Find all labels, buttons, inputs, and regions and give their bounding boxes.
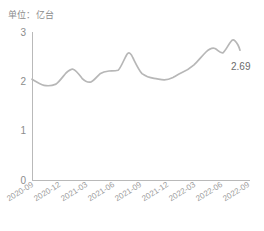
y-tick-label-2: 2 xyxy=(20,76,26,87)
y-tick-label-1: 1 xyxy=(20,125,26,136)
x-tick-label-6: 2022-03 xyxy=(167,180,197,203)
x-tick-label-2: 2021-03 xyxy=(59,180,89,203)
x-tick-label-4: 2021-09 xyxy=(113,180,143,203)
y-tick-label-3: 3 xyxy=(20,27,26,38)
x-tick-label-5: 2021-12 xyxy=(140,180,170,203)
line-chart-svg: 3 2 1 0 2.69 2020-09 2020-12 2021-03 202… xyxy=(0,0,264,231)
x-tick-label-3: 2021-06 xyxy=(86,180,116,203)
x-tick-label-1: 2020-12 xyxy=(32,180,62,203)
chart-container: 单位：亿台 3 2 1 0 2.69 2020-09 2020-12 2021-… xyxy=(0,0,264,231)
x-tick-label-7: 2022-06 xyxy=(194,180,224,203)
x-tick-label-8: 2022-09 xyxy=(221,180,251,203)
end-value-label: 2.69 xyxy=(231,61,251,72)
x-tick-labels: 2020-09 2020-12 2021-03 2021-06 2021-09 … xyxy=(5,180,251,203)
series-line-mobile-users xyxy=(32,40,240,86)
